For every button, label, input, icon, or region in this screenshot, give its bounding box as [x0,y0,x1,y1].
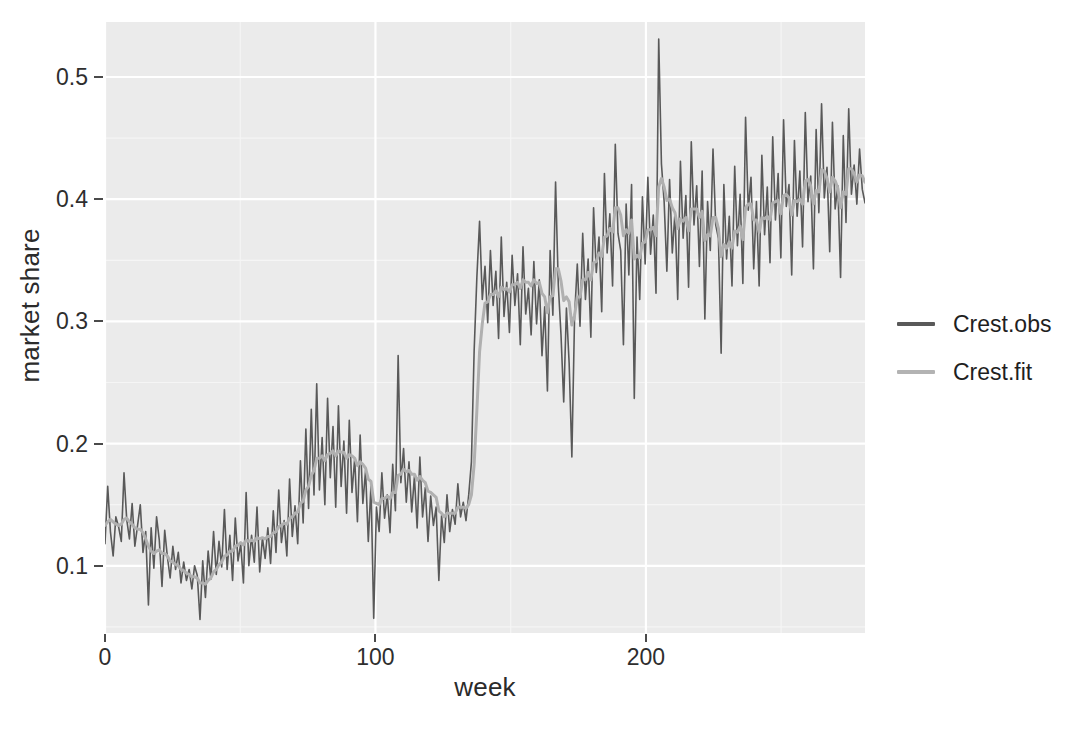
x-axis-title: week [105,672,865,703]
y-tick-label: 0.1 [8,552,88,579]
legend: Crest.obsCrest.fit [893,300,1083,396]
plot-panel [105,22,865,633]
legend-label: Crest.obs [953,311,1051,338]
legend-item[interactable]: Crest.obs [893,300,1083,348]
x-tick-label: 100 [315,644,435,671]
y-tick-mark [94,320,103,322]
y-axis-title: market share [15,96,46,516]
y-tick-mark [94,76,103,78]
series-line [105,169,865,584]
series-lines [105,39,865,619]
x-tick-mark [645,634,647,642]
legend-key-icon [893,301,939,347]
legend-key-icon [893,349,939,395]
plot-area-svg [105,22,865,633]
chart-root: 0.10.20.30.40.5 0100200 market share wee… [0,0,1092,729]
y-tick-mark [94,443,103,445]
legend-line-swatch [897,322,935,326]
x-tick-mark [374,634,376,642]
series-line [105,39,865,619]
x-tick-label: 0 [45,644,165,671]
y-tick-mark [94,198,103,200]
legend-item[interactable]: Crest.fit [893,348,1083,396]
x-tick-mark [104,634,106,642]
y-tick-mark [94,565,103,567]
legend-line-swatch [897,370,935,374]
legend-label: Crest.fit [953,359,1032,386]
x-tick-label: 200 [586,644,706,671]
y-tick-label: 0.5 [8,63,88,90]
